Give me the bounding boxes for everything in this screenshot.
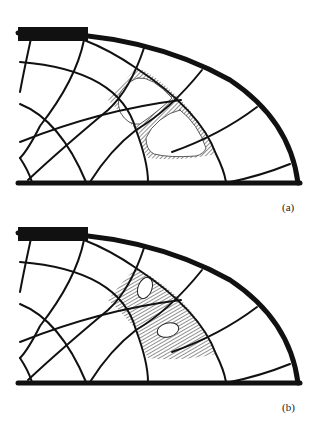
mesh-diagram-b bbox=[0, 200, 319, 412]
top-edge-bar bbox=[18, 27, 88, 41]
panel-label-b: (b) bbox=[282, 401, 295, 413]
panel-a: (a) bbox=[0, 0, 319, 212]
mesh-diagram-a bbox=[0, 0, 319, 212]
top-edge-bar bbox=[18, 227, 88, 241]
panel-b: (b) bbox=[0, 200, 319, 412]
